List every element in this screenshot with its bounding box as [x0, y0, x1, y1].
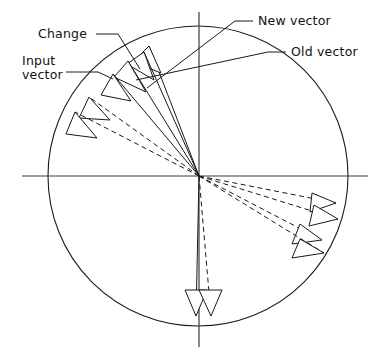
- label-input-vector-line2: vector: [22, 67, 64, 82]
- vector-line-upper-solid-2: [144, 52, 199, 176]
- vector-line-upper-dashed-1: [89, 97, 199, 176]
- vector-group-upper-solid: [101, 46, 199, 176]
- vector-diagram-figure: Change Input vector New vector Old vecto…: [0, 0, 387, 364]
- arrowhead-right-dashed-2: [309, 205, 338, 226]
- leader-lines: [66, 21, 286, 88]
- label-old-vector: Old vector: [291, 44, 359, 59]
- arrowhead-right-dashed-3: [292, 224, 322, 244]
- diagram-canvas: Change Input vector New vector Old vecto…: [0, 0, 387, 364]
- vector-group-right-dashed: [199, 176, 338, 258]
- vector-line-upper-solid-4: [113, 74, 199, 176]
- leader-old-vector: [136, 52, 286, 80]
- arrowhead-bottom-dashed: [199, 290, 222, 316]
- vector-group-bottom: [185, 176, 222, 316]
- vector-line-upper-solid-3: [128, 61, 199, 176]
- vector-line-upper-dashed-2: [75, 112, 199, 176]
- vector-group-upper-dashed: [66, 97, 199, 176]
- label-input-vector-line1: Input: [22, 53, 55, 68]
- label-change: Change: [38, 26, 87, 41]
- label-new-vector: New vector: [258, 13, 332, 28]
